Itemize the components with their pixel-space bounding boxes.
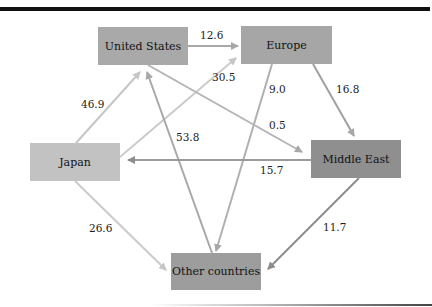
- node-label: Japan: [59, 156, 91, 169]
- node-label: Europe: [266, 39, 307, 52]
- node-middle-east: Middle East: [311, 140, 401, 178]
- edge-label-europe-other: 9.0: [269, 83, 286, 95]
- edge-label-us-europe: 12.6: [200, 29, 223, 41]
- node-other-countries: Other countries: [171, 253, 261, 290]
- edge-label-japan-other: 26.6: [89, 222, 112, 234]
- edge-label-japan-europe: 30.5: [212, 71, 235, 83]
- edge-label-me-japan: 15.7: [260, 164, 283, 176]
- node-united-states: United States: [98, 27, 188, 65]
- node-label: Other countries: [172, 265, 260, 278]
- node-japan: Japan: [30, 143, 120, 181]
- edge-label-us-me: 0.5: [269, 119, 286, 131]
- edge-label-japan-us: 46.9: [81, 98, 104, 110]
- edge-label-europe-me: 16.8: [336, 83, 359, 95]
- node-label: United States: [105, 40, 181, 53]
- node-label: Middle East: [322, 153, 389, 166]
- edge-label-me-other: 11.7: [323, 221, 346, 233]
- edge-label-other-us: 53.8: [176, 131, 199, 143]
- bottom-rule: [150, 304, 432, 306]
- node-europe: Europe: [241, 26, 332, 64]
